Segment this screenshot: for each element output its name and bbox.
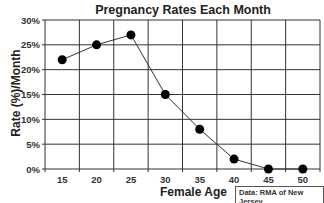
x-tick-label: 45 (263, 174, 274, 185)
data-point (92, 40, 101, 49)
x-tick-label: 40 (229, 174, 240, 185)
y-tick-label: 10% (21, 114, 41, 125)
y-tick-label: 15% (21, 89, 41, 100)
data-point (126, 30, 135, 39)
data-point (264, 165, 273, 174)
data-point (230, 155, 239, 164)
x-tick-label: 25 (126, 174, 137, 185)
y-tick-labels: 0%5%10%15%20%25%30% (21, 15, 41, 175)
x-tick-label: 20 (91, 174, 102, 185)
y-tick-label: 5% (26, 139, 40, 150)
y-tick-label: 0% (26, 164, 40, 175)
x-tick-label: 50 (298, 174, 309, 185)
y-tick-label: 30% (21, 15, 41, 26)
y-tick-label: 25% (21, 39, 41, 50)
x-tick-label: 30 (160, 174, 171, 185)
grid-lines (42, 20, 320, 172)
x-tick-label: 35 (194, 174, 205, 185)
y-tick-label: 20% (21, 64, 41, 75)
line-chart: 0%5%10%15%20%25%30% 1520253035404550 (0, 0, 324, 203)
data-point (195, 125, 204, 134)
data-point (161, 90, 170, 99)
x-tick-label: 15 (57, 174, 68, 185)
data-point (298, 165, 307, 174)
data-point (58, 55, 67, 64)
x-tick-labels: 1520253035404550 (57, 174, 308, 185)
